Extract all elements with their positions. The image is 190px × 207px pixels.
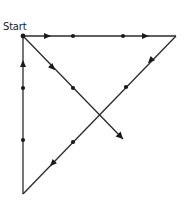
direction-arrow-icon [44, 33, 51, 39]
direction-arrow-icon [146, 56, 155, 65]
point-dot-icon [21, 138, 25, 142]
direction-arrow-icon [142, 33, 149, 39]
point-dot-icon [71, 34, 75, 38]
point-dot-icon [124, 85, 128, 89]
direction-arrow-icon [48, 63, 57, 72]
start-point-dot-icon [21, 34, 26, 39]
point-dot-icon [71, 86, 75, 90]
point-dot-icon [121, 34, 125, 38]
path-diagram [0, 0, 190, 207]
point-dot-icon [71, 140, 75, 144]
point-dot-icon [21, 86, 25, 90]
direction-arrow-icon [20, 60, 26, 67]
